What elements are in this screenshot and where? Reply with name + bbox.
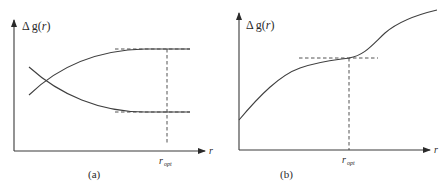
panel-a: Δg(r) r ropt (a): [14, 19, 213, 181]
caption-b: (b): [280, 168, 293, 181]
decreasing-curve-a: [29, 67, 190, 112]
panel-b: Δg(r) r ropt (b): [239, 10, 438, 181]
y-axis-label-b: Δg(r): [246, 18, 274, 32]
x-axis-label-a: r: [209, 145, 213, 156]
r-opt-label-b: ropt: [342, 154, 355, 166]
increasing-curve-a: [29, 49, 190, 95]
y-axis-label-a: Δg(r): [22, 19, 50, 33]
figure-canvas: Δg(r) r ropt (a) Δg(r) r ropt (b): [0, 0, 445, 193]
r-opt-label-a: ropt: [159, 155, 172, 167]
caption-a: (a): [88, 168, 101, 181]
x-axis-label-b: r: [434, 144, 438, 155]
